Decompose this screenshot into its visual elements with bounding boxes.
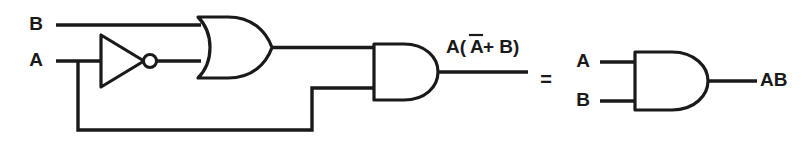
and-gate-body-left <box>374 44 438 100</box>
input-label-a-right: A <box>576 50 590 71</box>
equals-sign: = <box>540 68 552 90</box>
circuit-canvas: B A A( A + B) = <box>0 0 808 142</box>
not-gate-bubble-icon <box>144 55 157 68</box>
input-label-b: B <box>29 13 43 34</box>
or-gate-body <box>198 17 272 78</box>
output-expression-negated-term: A <box>470 36 484 57</box>
input-label-b-right: B <box>576 89 590 110</box>
logic-circuit-diagram: B A A( A + B) = <box>0 0 808 142</box>
output-expression-label: A( A + B) <box>446 35 519 57</box>
input-label-a: A <box>29 49 43 70</box>
and-gate-body-right <box>635 52 708 110</box>
output-label-ab: AB <box>760 69 787 90</box>
output-expression-prefix: A( <box>446 36 467 57</box>
not-gate-triangle <box>101 35 144 87</box>
output-expression-suffix: + B) <box>483 36 519 57</box>
